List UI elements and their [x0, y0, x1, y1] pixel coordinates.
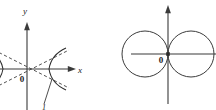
x-axis-label: x — [77, 65, 82, 75]
annotation-label: 1 — [42, 103, 46, 110]
origin-label-right: 0 — [159, 55, 164, 65]
origin-label-left: 0 — [20, 74, 25, 84]
y-axis-label: y — [22, 6, 27, 16]
origin-marker-right — [166, 52, 170, 56]
math-figure-pair: y x 0 1 0 — [0, 0, 216, 110]
canvas-background — [0, 0, 216, 110]
